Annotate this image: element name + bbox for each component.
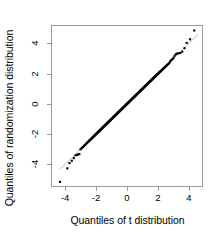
- y-tick-mark: [47, 74, 51, 75]
- y-tick-mark: [47, 134, 51, 135]
- data-point: [186, 42, 188, 44]
- x-tick-mark: [127, 187, 128, 191]
- scatter-points: [59, 29, 195, 182]
- plot-area: [51, 25, 203, 187]
- x-tick-label: 0: [117, 192, 137, 203]
- data-point: [183, 47, 185, 49]
- y-tick-label: -2: [29, 125, 41, 143]
- x-axis-label: Quantiles of t distribution: [51, 214, 204, 226]
- y-tick-label: -4: [29, 155, 41, 173]
- x-tick-label: -4: [55, 192, 75, 203]
- y-tick-mark: [47, 43, 51, 44]
- x-tick-mark: [96, 187, 97, 191]
- data-point: [68, 162, 70, 164]
- x-tick-label: 2: [148, 192, 168, 203]
- data-point: [173, 57, 175, 59]
- data-point: [193, 29, 195, 31]
- data-point: [181, 51, 183, 53]
- qq-plot-figure: Quantiles of randomization distribution …: [0, 0, 220, 236]
- x-tick-mark: [65, 187, 66, 191]
- data-point: [59, 181, 61, 183]
- data-point: [78, 153, 80, 155]
- x-tick-mark: [189, 187, 190, 191]
- y-axis-label: Quantiles of randomization distribution: [0, 0, 18, 236]
- y-tick-label: 4: [29, 34, 41, 52]
- x-tick-label: -2: [86, 192, 106, 203]
- x-tick-mark: [158, 187, 159, 191]
- data-point: [189, 38, 191, 40]
- plot-canvas: [52, 26, 202, 186]
- data-point: [73, 157, 75, 159]
- y-tick-label: 2: [29, 65, 41, 83]
- data-point: [66, 167, 68, 169]
- x-tick-label: 4: [179, 192, 199, 203]
- data-point: [179, 52, 181, 54]
- y-tick-label: 0: [29, 95, 41, 113]
- y-tick-mark: [47, 104, 51, 105]
- y-tick-mark: [47, 164, 51, 165]
- data-point: [71, 160, 73, 162]
